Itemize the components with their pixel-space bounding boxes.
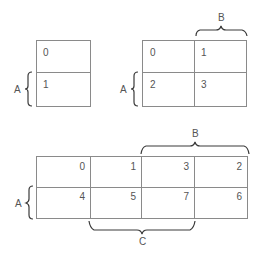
map1-label-a: A — [14, 84, 21, 95]
map3-cell-r1c1: 5 — [130, 191, 136, 202]
kmap-two-variable: 0 1 2 3 B A — [120, 12, 247, 107]
map2-brace-a — [131, 72, 138, 106]
map3-cell-r0c3: 2 — [236, 161, 242, 172]
map1-brace-a — [25, 72, 32, 106]
map3-brace-c — [89, 221, 195, 234]
map2-label-b: B — [218, 12, 225, 23]
map3-cell-r0c2: 3 — [183, 161, 189, 172]
map3-cell-r0c1: 1 — [130, 161, 136, 172]
map1-cell-0: 0 — [43, 47, 49, 58]
map3-cell-r0c0: 0 — [79, 161, 85, 172]
map1-cell-1: 1 — [43, 79, 49, 90]
map3-cell-r1c3: 6 — [236, 191, 242, 202]
map2-cell-3: 3 — [201, 79, 207, 90]
kmap-three-variable: 0 1 3 2 4 5 7 6 B A C — [15, 128, 249, 247]
map2-cell-0: 0 — [150, 47, 156, 58]
map3-brace-a — [26, 186, 33, 219]
map2-label-a: A — [120, 84, 127, 95]
kmap-one-variable: 0 1 A — [14, 41, 91, 107]
karnaugh-map-diagram: 0 1 A 0 1 2 3 B A 0 1 3 2 4 5 7 6 — [0, 0, 260, 258]
map2-brace-b — [196, 26, 247, 36]
map3-brace-b — [141, 142, 249, 154]
map3-cell-r1c0: 4 — [79, 191, 85, 202]
map3-cell-r1c2: 7 — [183, 191, 189, 202]
map3-label-a: A — [15, 198, 22, 209]
map2-cell-2: 2 — [150, 79, 156, 90]
map2-cell-1: 1 — [201, 47, 207, 58]
map3-label-b: B — [192, 128, 199, 139]
map3-label-c: C — [139, 236, 146, 247]
